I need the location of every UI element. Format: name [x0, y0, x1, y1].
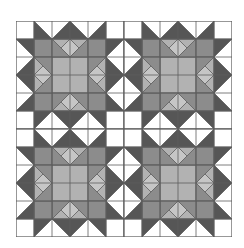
inner-corner-square	[196, 201, 214, 219]
inner-corner-square	[196, 39, 214, 57]
inner-corner-square	[34, 201, 52, 219]
inner-corner-square	[88, 147, 106, 165]
inner-corner-square	[196, 147, 214, 165]
inner-corner-square	[142, 147, 160, 165]
inner-corner-square	[142, 201, 160, 219]
inner-corner-square	[196, 93, 214, 111]
inner-corner-square	[88, 201, 106, 219]
inner-corner-square	[34, 147, 52, 165]
inner-corner-square	[34, 39, 52, 57]
inner-corner-square	[142, 39, 160, 57]
inner-corner-square	[34, 93, 52, 111]
inner-corner-square	[88, 93, 106, 111]
quilt-pattern	[16, 21, 232, 237]
inner-corner-square	[142, 93, 160, 111]
inner-corner-square	[88, 39, 106, 57]
